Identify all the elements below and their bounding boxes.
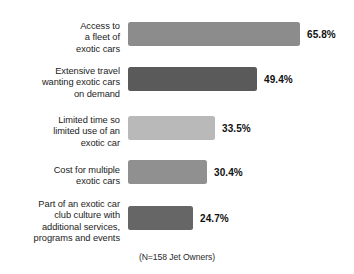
bar-track: 33.5%	[128, 116, 215, 140]
bar-value-label: 24.7%	[200, 213, 229, 224]
bar-track: 24.7%	[128, 206, 193, 230]
bar-category-label: Limited time so limited use of an exotic…	[0, 115, 120, 149]
bar-category-label: Cost for multiple exotic cars	[0, 165, 120, 188]
bar-value-label: 33.5%	[222, 123, 251, 134]
bar-track: 49.4%	[128, 67, 257, 91]
bar-fill	[128, 67, 257, 91]
bar-track: 30.4%	[128, 160, 207, 184]
horizontal-bar-chart: Access to a fleet of exotic cars 65.8% E…	[0, 0, 354, 274]
sample-size-note: (N=158 Jet Owners)	[0, 252, 354, 262]
bar-value-label: 30.4%	[214, 167, 243, 178]
bar-value-label: 65.8%	[307, 29, 336, 40]
bar-track: 65.8%	[128, 22, 300, 46]
bar-fill	[128, 22, 300, 46]
bar-fill	[128, 160, 207, 184]
bar-category-label: Part of an exotic car club culture with …	[0, 199, 120, 245]
bar-category-label: Access to a fleet of exotic cars	[0, 21, 120, 55]
bar-value-label: 49.4%	[264, 74, 293, 85]
bar-fill	[128, 206, 193, 230]
bar-category-label: Extensive travel wanting exotic cars on …	[0, 66, 120, 100]
bar-fill	[128, 116, 215, 140]
